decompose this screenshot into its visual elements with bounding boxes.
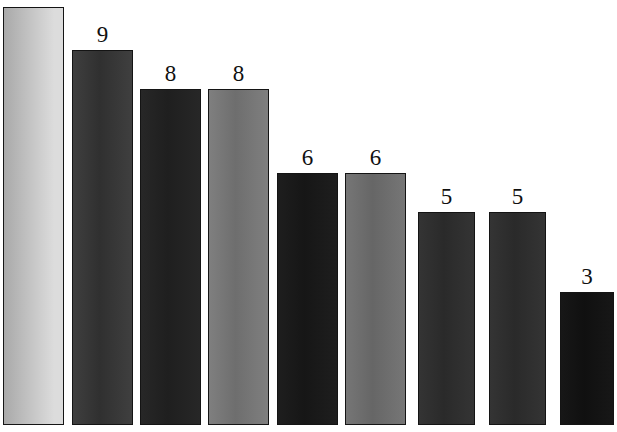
bar-value-label: 8: [165, 62, 177, 85]
bar: [560, 292, 614, 425]
bar-value-label: 6: [370, 146, 382, 169]
bar-group: 8: [208, 89, 269, 425]
bar-group: 9: [72, 50, 133, 425]
bar-group: 5: [418, 212, 475, 425]
bar-group: 6: [345, 173, 406, 425]
bar: [489, 212, 546, 425]
bar: [277, 173, 338, 425]
bar-value-label: 3: [581, 265, 593, 288]
bar-value-label: 9: [97, 23, 109, 46]
bar-value-label: 8: [233, 62, 245, 85]
bar-group: 5: [489, 212, 546, 425]
bar: [140, 89, 201, 425]
bar-group: 8: [140, 89, 201, 425]
bar-group: 3: [560, 292, 614, 425]
bar-group: 6: [277, 173, 338, 425]
bar-value-label: 5: [512, 185, 524, 208]
bar: [208, 89, 269, 425]
bar: [345, 173, 406, 425]
bar-group: [3, 7, 64, 425]
bar-value-label: 6: [302, 146, 314, 169]
bar: [3, 7, 64, 425]
bar-value-label: 5: [441, 185, 453, 208]
bar: [72, 50, 133, 425]
bar: [418, 212, 475, 425]
bar-chart: 98866553: [0, 0, 617, 432]
